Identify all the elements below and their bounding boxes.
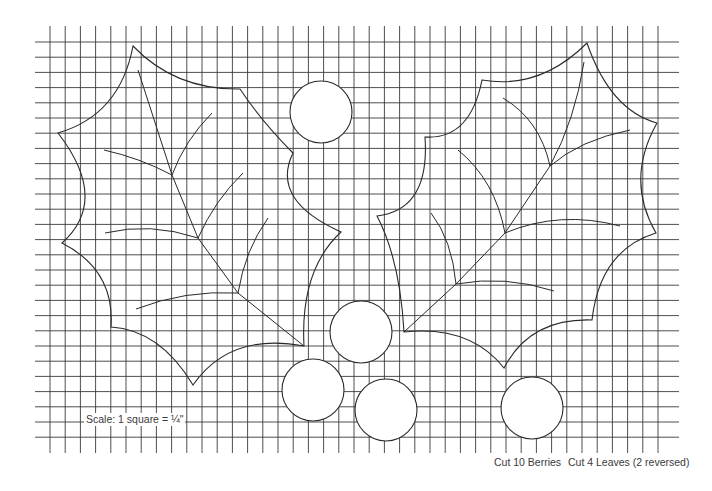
left-leaf-vein (172, 113, 212, 175)
holly-berry-circle (290, 81, 352, 143)
right-leaf-vein (458, 150, 505, 233)
right-leaf-vein (431, 213, 456, 284)
right-holly-leaf (377, 43, 657, 368)
graph-paper-grid (35, 26, 679, 453)
holly-berry-circle (330, 301, 392, 363)
right-leaf-vein (456, 281, 554, 291)
holly-berry-circle (282, 359, 344, 421)
holly-berry-circle (501, 377, 563, 439)
left-leaf-vein (198, 173, 243, 238)
cut-leaves-instruction: Cut 4 Leaves (2 reversed) (568, 456, 689, 469)
right-leaf-vein (505, 219, 620, 233)
right-leaf-outline (377, 43, 657, 368)
holly-berry-circle (355, 379, 417, 441)
left-leaf-vein (105, 229, 198, 238)
left-leaf-midrib (138, 70, 304, 346)
left-leaf-vein (104, 150, 172, 175)
cut-berries-instruction: Cut 10 Berries (494, 456, 561, 469)
left-leaf-vein (238, 218, 268, 293)
right-leaf-vein (503, 98, 550, 166)
scale-label: Scale: 1 square = ¼" (84, 413, 185, 426)
